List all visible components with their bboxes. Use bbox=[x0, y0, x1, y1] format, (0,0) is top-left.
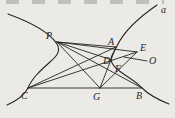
label-a: a bbox=[161, 4, 166, 15]
geometry-figure: PAEODFCGBa bbox=[0, 0, 175, 118]
scanned-textbook-figure: PAEODFCGBa bbox=[0, 0, 175, 118]
label-D: D bbox=[102, 55, 111, 66]
label-O: O bbox=[149, 55, 156, 66]
curve-left-branch bbox=[7, 14, 59, 105]
label-E: E bbox=[139, 42, 146, 53]
line-P-B bbox=[57, 42, 142, 88]
line-O-leader bbox=[124, 57, 147, 61]
label-C: C bbox=[21, 90, 28, 101]
label-A: A bbox=[107, 36, 115, 47]
label-P: P bbox=[45, 30, 52, 41]
line-P-E bbox=[57, 42, 137, 52]
label-F: F bbox=[114, 63, 122, 74]
label-B: B bbox=[136, 90, 142, 101]
label-G: G bbox=[93, 91, 100, 102]
